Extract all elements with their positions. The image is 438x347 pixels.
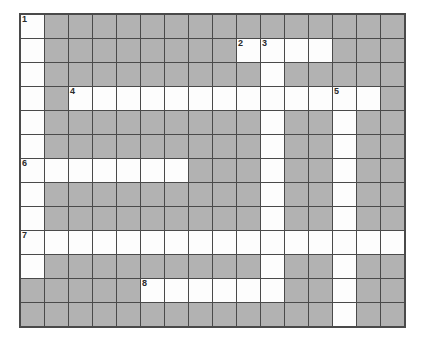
crossword-cell-block — [213, 303, 237, 328]
crossword-cell-open[interactable] — [93, 231, 117, 255]
crossword-cell-open[interactable] — [333, 255, 357, 279]
crossword-cell-open[interactable] — [213, 87, 237, 111]
crossword-cell-open[interactable] — [69, 159, 93, 183]
crossword-cell-block — [285, 111, 309, 135]
crossword-cell-block — [357, 111, 381, 135]
crossword-cell-open[interactable] — [45, 159, 69, 183]
crossword-cell-open[interactable] — [93, 87, 117, 111]
crossword-cell-block — [285, 303, 309, 328]
crossword-cell-open[interactable] — [213, 231, 237, 255]
crossword-cell-block — [165, 135, 189, 159]
crossword-cell-open[interactable] — [333, 279, 357, 303]
crossword-cell-block — [189, 14, 213, 39]
crossword-cell-open[interactable] — [261, 135, 285, 159]
crossword-cell-block — [381, 183, 406, 207]
crossword-cell-open[interactable] — [333, 183, 357, 207]
crossword-cell-open[interactable] — [261, 231, 285, 255]
crossword-cell-open[interactable]: 5 — [333, 87, 357, 111]
crossword-cell-block — [165, 183, 189, 207]
crossword-cell-open[interactable]: 4 — [69, 87, 93, 111]
crossword-cell-block — [69, 207, 93, 231]
crossword-cell-open[interactable] — [213, 279, 237, 303]
crossword-cell-open[interactable] — [285, 231, 309, 255]
crossword-cell-open[interactable] — [333, 135, 357, 159]
crossword-cell-open[interactable] — [189, 231, 213, 255]
crossword-cell-open[interactable]: 1 — [20, 14, 45, 39]
crossword-cell-open[interactable] — [309, 39, 333, 63]
clue-number: 5 — [334, 86, 339, 96]
crossword-cell-block — [93, 135, 117, 159]
clue-number: 3 — [262, 38, 267, 48]
crossword-cell-open[interactable] — [117, 231, 141, 255]
crossword-cell-open[interactable] — [165, 279, 189, 303]
crossword-cell-block — [69, 183, 93, 207]
crossword-cell-open[interactable] — [261, 111, 285, 135]
crossword-cell-open[interactable] — [261, 87, 285, 111]
crossword-cell-open[interactable] — [333, 231, 357, 255]
crossword-cell-open[interactable] — [141, 231, 165, 255]
crossword-cell-open[interactable] — [261, 207, 285, 231]
crossword-cell-open[interactable] — [141, 87, 165, 111]
crossword-cell-open[interactable] — [20, 135, 45, 159]
crossword-cell-open[interactable] — [333, 111, 357, 135]
crossword-cell-block — [213, 111, 237, 135]
crossword-cell-open[interactable] — [189, 279, 213, 303]
crossword-cell-block — [69, 14, 93, 39]
crossword-cell-open[interactable] — [237, 87, 261, 111]
crossword-cell-block — [285, 63, 309, 87]
crossword-cell-open[interactable] — [381, 231, 406, 255]
crossword-puzzle-container: 12345678 — [0, 0, 438, 347]
crossword-cell-open[interactable] — [333, 159, 357, 183]
crossword-cell-block — [213, 135, 237, 159]
crossword-cell-open[interactable] — [261, 63, 285, 87]
crossword-cell-open[interactable] — [261, 279, 285, 303]
crossword-cell-open[interactable] — [45, 231, 69, 255]
crossword-cell-open[interactable] — [261, 255, 285, 279]
crossword-cell-block — [93, 14, 117, 39]
crossword-cell-open[interactable] — [20, 87, 45, 111]
crossword-cell-open[interactable] — [261, 159, 285, 183]
crossword-cell-block — [45, 183, 69, 207]
crossword-cell-open[interactable] — [285, 87, 309, 111]
crossword-cell-open[interactable] — [165, 231, 189, 255]
crossword-cell-block — [285, 135, 309, 159]
crossword-row: 45 — [20, 87, 405, 111]
crossword-cell-open[interactable]: 7 — [20, 231, 45, 255]
crossword-cell-open[interactable]: 6 — [20, 159, 45, 183]
crossword-cell-open[interactable] — [165, 87, 189, 111]
crossword-cell-open[interactable] — [20, 255, 45, 279]
crossword-grid[interactable]: 12345678 — [19, 13, 406, 328]
crossword-cell-open[interactable] — [20, 207, 45, 231]
crossword-cell-block — [141, 63, 165, 87]
crossword-cell-open[interactable] — [69, 231, 93, 255]
crossword-cell-open[interactable] — [261, 183, 285, 207]
crossword-grid-body: 12345678 — [20, 14, 405, 327]
crossword-cell-open[interactable]: 2 — [237, 39, 261, 63]
crossword-cell-open[interactable] — [141, 159, 165, 183]
crossword-cell-open[interactable] — [237, 279, 261, 303]
crossword-cell-open[interactable] — [333, 207, 357, 231]
crossword-cell-block — [261, 303, 285, 328]
crossword-cell-open[interactable] — [357, 87, 381, 111]
crossword-cell-open[interactable] — [117, 159, 141, 183]
crossword-cell-block — [69, 39, 93, 63]
crossword-cell-open[interactable] — [93, 159, 117, 183]
crossword-cell-open[interactable] — [285, 39, 309, 63]
crossword-cell-open[interactable] — [20, 63, 45, 87]
crossword-cell-open[interactable] — [20, 111, 45, 135]
crossword-cell-open[interactable] — [189, 87, 213, 111]
crossword-cell-open[interactable] — [20, 39, 45, 63]
crossword-cell-open[interactable] — [237, 231, 261, 255]
crossword-cell-open[interactable] — [309, 231, 333, 255]
crossword-cell-block — [381, 159, 406, 183]
crossword-cell-open[interactable]: 3 — [261, 39, 285, 63]
crossword-cell-block — [93, 39, 117, 63]
crossword-cell-open[interactable] — [20, 183, 45, 207]
crossword-cell-open[interactable] — [117, 87, 141, 111]
crossword-cell-open[interactable] — [357, 231, 381, 255]
crossword-cell-open[interactable] — [333, 303, 357, 328]
crossword-cell-open[interactable]: 8 — [141, 279, 165, 303]
crossword-cell-open[interactable] — [309, 87, 333, 111]
crossword-cell-block — [45, 111, 69, 135]
crossword-cell-open[interactable] — [165, 159, 189, 183]
